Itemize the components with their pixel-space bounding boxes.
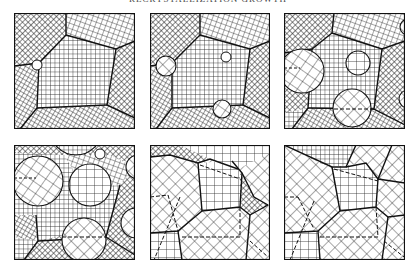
nucleus bbox=[32, 60, 42, 70]
panel-stage-3 bbox=[284, 13, 405, 129]
nucleus bbox=[69, 164, 111, 206]
grain-structure-stage-4 bbox=[14, 145, 135, 260]
nucleus bbox=[14, 156, 63, 206]
panel-stage-2 bbox=[150, 13, 270, 129]
nucleus bbox=[62, 218, 106, 260]
panel-stage-5 bbox=[150, 145, 270, 260]
panel-stage-6 bbox=[284, 145, 405, 260]
grain-structure-stage-2 bbox=[150, 13, 270, 129]
nucleus bbox=[156, 56, 176, 76]
nucleus bbox=[284, 49, 324, 93]
figure-caption: RECRYSTALLIZATION GROWTH bbox=[0, 0, 416, 2]
nucleus bbox=[333, 89, 371, 127]
panel-stage-1 bbox=[14, 13, 135, 129]
nucleus bbox=[346, 51, 370, 75]
grain-structure-stage-6 bbox=[284, 145, 405, 260]
panel-stage-4 bbox=[14, 145, 135, 260]
nucleus bbox=[213, 100, 231, 118]
grain-structure-stage-5 bbox=[150, 145, 270, 260]
nucleus bbox=[95, 149, 105, 159]
grain-structure-stage-3 bbox=[284, 13, 405, 129]
nucleus bbox=[221, 52, 231, 62]
grain-structure-stage-1 bbox=[14, 13, 135, 129]
